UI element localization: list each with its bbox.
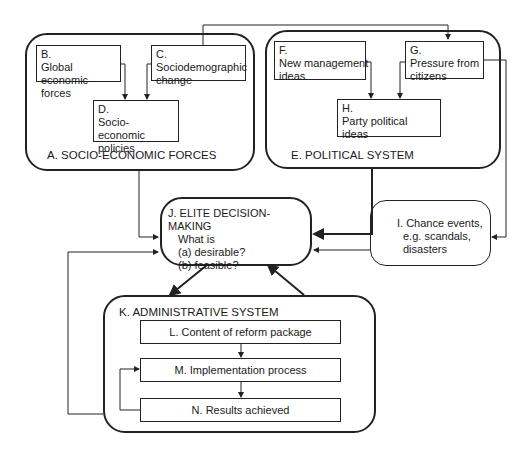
node-line: I. Chance events, [397, 217, 490, 230]
node-text: L. Content of reform package [169, 326, 311, 339]
node-id: C. [156, 48, 241, 61]
node-text: Socio-economic policies [98, 116, 174, 155]
node-text: M. Implementation process [174, 364, 306, 377]
node-text: N. Results achieved [192, 404, 290, 417]
node-id: D. [98, 103, 174, 116]
node-line: (a) desirable? [178, 246, 310, 259]
node-c-sociodemographic-change: C. Sociodemographic change [151, 45, 246, 81]
node-line: disasters [403, 243, 490, 256]
node-text: Sociodemographic change [156, 61, 246, 87]
group-label-k: K. ADMINISTRATIVE SYSTEM [119, 306, 279, 318]
node-line: e.g. scandals, [403, 230, 490, 243]
node-text: Pressure from citizens [410, 57, 482, 83]
node-id: H. [342, 102, 436, 115]
node-l-content-of-reform-package: L. Content of reform package [140, 320, 341, 344]
node-f-new-management-ideas: F. New management ideas [274, 41, 366, 80]
node-text: Party political ideas [342, 115, 436, 141]
node-b-global-economic-forces: B. Global economic forces [36, 45, 121, 82]
node-text: Global economic forces [41, 61, 119, 100]
group-label-e: E. POLITICAL SYSTEM [291, 149, 414, 161]
node-id: G. [410, 44, 479, 57]
node-h-party-political-ideas: H. Party political ideas [337, 99, 441, 137]
node-line: (b) feasible? [178, 259, 310, 272]
node-title: J. ELITE DECISION-MAKING [168, 207, 310, 233]
node-i-chance-events: I. Chance events, e.g. scandals, disaste… [370, 200, 491, 266]
node-id: F. [279, 44, 361, 57]
node-j-elite-decision-making: J. ELITE DECISION-MAKING What is (a) des… [160, 197, 312, 266]
node-d-socio-economic-policies: D. Socio-economic policies [93, 100, 179, 142]
node-line: What is [178, 233, 310, 246]
node-g-pressure-from-citizens: G. Pressure from citizens [405, 41, 484, 79]
node-n-results-achieved: N. Results achieved [140, 398, 341, 422]
node-m-implementation-process: M. Implementation process [140, 358, 341, 382]
node-text: New management ideas [279, 57, 369, 83]
node-id: B. [41, 48, 116, 61]
